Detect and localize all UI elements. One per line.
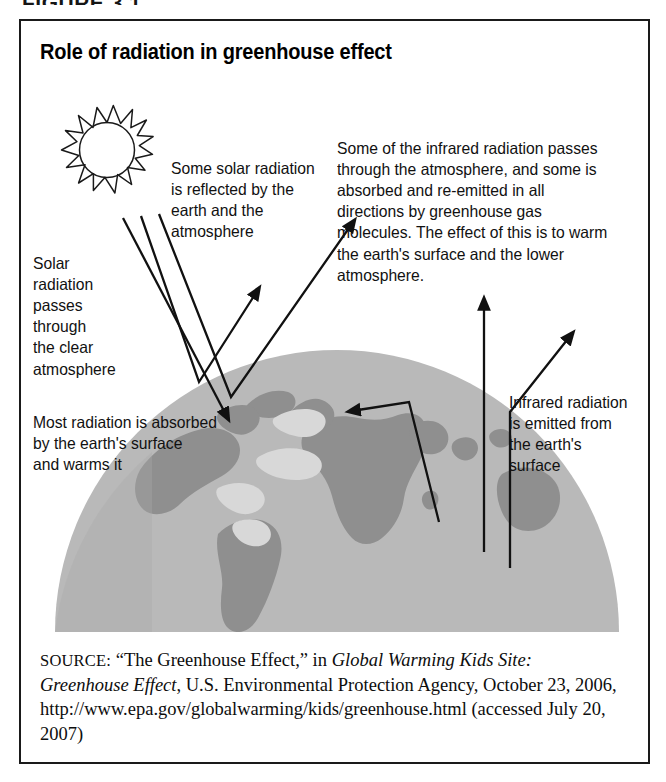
source-label: SOURCE: (40, 651, 111, 670)
annotation-infrared-emitted: Infrared radiation is emitted from the e… (509, 392, 642, 476)
annotation-most-radiation-absorbed: Most radiation is absorbed by the earth'… (33, 412, 256, 475)
figure-label: FIGURE 3.1 (22, 0, 141, 5)
source-note: SOURCE: “The Greenhouse Effect,” in Glob… (40, 648, 622, 746)
annotation-reflected-solar: Some solar radiation is reflected by the… (171, 158, 334, 242)
sun-illustration (62, 106, 154, 194)
annotation-infrared-passes-through: Some of the infrared radiation passes th… (337, 138, 628, 286)
source-italic-title2: Greenhouse Effect (40, 675, 176, 695)
source-italic-title1: Global Warming Kids Site: (332, 650, 532, 670)
source-text-part1: “The Greenhouse Effect,” in (111, 650, 332, 670)
annotation-solar-passes-through: Solar radiation passes through the clear… (33, 253, 147, 380)
